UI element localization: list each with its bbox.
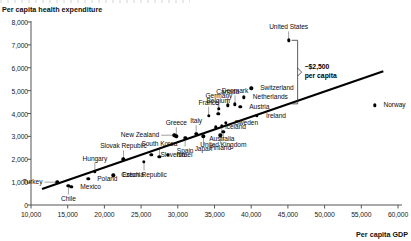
- y-tick-label: 8,000: [0, 19, 28, 26]
- point-label: Turkey: [23, 179, 43, 186]
- point-label: Norway: [384, 102, 406, 109]
- y-tick-label: 4,000: [0, 110, 28, 117]
- point-label: Spain: [177, 147, 194, 154]
- x-tick-label: 35,000: [195, 211, 235, 218]
- point-label: Poland: [97, 175, 117, 182]
- x-tick-label: 20,000: [84, 211, 124, 218]
- point-label: Denmark: [222, 88, 248, 95]
- x-tick-label: 10,000: [11, 211, 51, 218]
- point-label: Belgium: [206, 97, 229, 104]
- x-tick-label: 25,000: [121, 211, 161, 218]
- plot-area: [0, 0, 411, 241]
- y-tick-label: 3,000: [0, 133, 28, 140]
- annotation-label: ~$2,500 per capita: [305, 63, 337, 81]
- annotation-line-1: ~$2,500: [305, 63, 337, 72]
- point-label: South Korea: [141, 141, 177, 148]
- annotation-bracket: [292, 40, 302, 104]
- point-label: New Zealand: [121, 132, 159, 139]
- scatter-chart: Per capita health expenditure Per capita…: [0, 0, 411, 241]
- x-tick-label: 40,000: [231, 211, 271, 218]
- point-label: Austria: [249, 103, 269, 110]
- point-label: Sweden: [235, 119, 259, 126]
- y-tick-label: 5,000: [0, 87, 28, 94]
- y-tick-label: 7,000: [0, 41, 28, 48]
- x-tick-label: 30,000: [158, 211, 198, 218]
- x-tick-label: 45,000: [268, 211, 308, 218]
- point-label: Chile: [61, 195, 76, 202]
- axis-lines: [28, 21, 403, 209]
- point-label: Czech Republic: [121, 171, 166, 178]
- point-label: Australia: [209, 136, 234, 143]
- leader-lines: [44, 31, 288, 194]
- y-tick-label: 2,000: [0, 156, 28, 163]
- y-tick-label: 0: [0, 202, 28, 209]
- x-tick-label: 50,000: [305, 211, 345, 218]
- point-label: Switzerland: [260, 85, 294, 92]
- x-tick-label: 60,000: [378, 211, 411, 218]
- point-label: Italy: [190, 118, 202, 125]
- x-tick-label: 55,000: [341, 211, 381, 218]
- point-label: Mexico: [80, 184, 101, 191]
- y-tick-label: 6,000: [0, 64, 28, 71]
- point-label: United Kingdom: [200, 142, 246, 149]
- point-label: Greece: [166, 120, 187, 127]
- point-label: Slovak Republic: [100, 143, 147, 150]
- x-tick-label: 15,000: [48, 211, 88, 218]
- point-label: Hungary: [83, 156, 108, 163]
- point-label: Netherlands: [253, 94, 288, 101]
- point-label: United States: [269, 24, 308, 31]
- point-label: Ireland: [266, 112, 286, 119]
- annotation-line-2: per capita: [305, 72, 337, 81]
